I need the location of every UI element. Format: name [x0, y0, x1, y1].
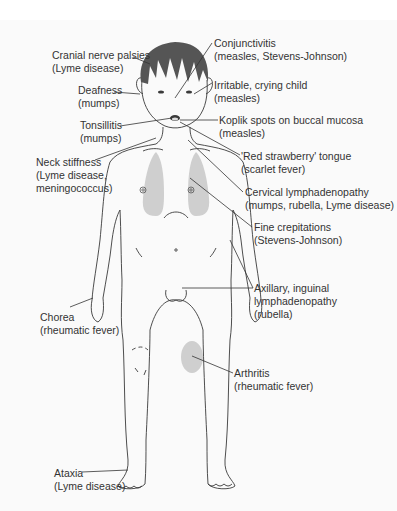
label-neck-stiffness: Neck stiffness(Lyme disease,meningococcu… — [36, 156, 112, 195]
lungs-shading — [143, 152, 209, 216]
label-red-strawberry-tongue: 'Red strawberry' tongue(scarlet fever) — [241, 150, 351, 176]
label-ataxia: Ataxia(Lyme disease) — [54, 467, 125, 493]
label-fine-crepitations: Fine crepitations(Stevens-Johnson) — [254, 221, 342, 247]
label-tonsillitis: Tonsillitis(mumps) — [80, 119, 122, 145]
knee-shading — [181, 341, 203, 373]
child-body-diagram — [0, 0, 397, 511]
label-arthritis: Arthritis(rheumatic fever) — [234, 367, 313, 393]
label-koplik-spots: Koplik spots on buccal mucosa(measles) — [219, 114, 363, 140]
label-axillary-inguinal-lymphadenopathy: Axillary, inguinallymphadenopathy(rubell… — [254, 282, 337, 321]
label-chorea: Chorea(rheumatic fever) — [40, 311, 119, 337]
label-irritable-crying-child: Irritable, crying child(measles) — [214, 79, 307, 105]
label-cranial-nerve-palsies: Cranial nerve palsies(Lyme disease) — [52, 49, 150, 75]
label-deafness: Deafness(mumps) — [78, 84, 122, 110]
label-cervical-lymphadenopathy: Cervical lymphadenopathy(mumps, rubella,… — [245, 186, 394, 212]
label-conjunctivitis: Conjunctivitis(measles, Stevens-Johnson) — [214, 37, 347, 63]
